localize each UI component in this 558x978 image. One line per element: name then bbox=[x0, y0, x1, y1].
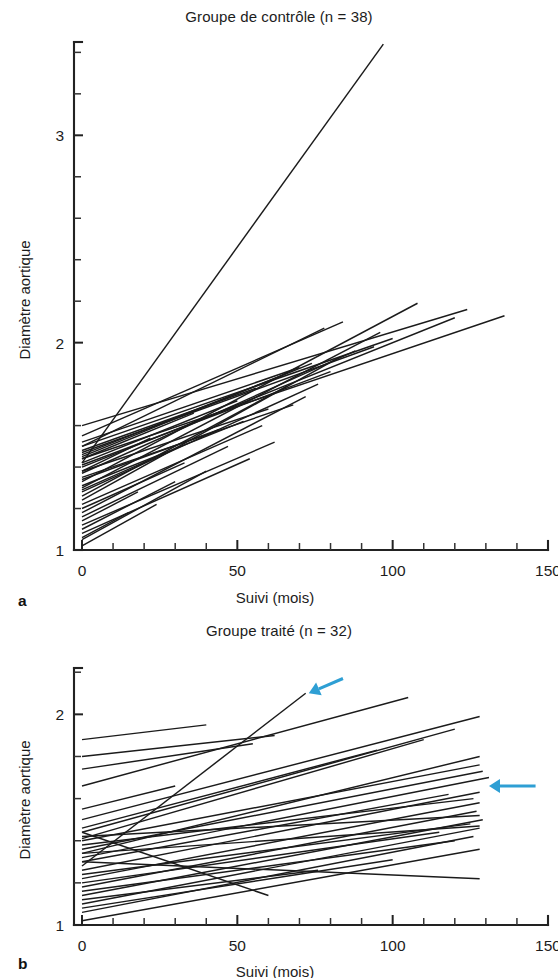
y-tick-label: 1 bbox=[55, 542, 64, 559]
y-tick-label: 1 bbox=[55, 917, 64, 934]
x-tick-label: 0 bbox=[78, 937, 87, 954]
patient-trajectory-line bbox=[82, 332, 380, 488]
y-tick-label: 2 bbox=[55, 706, 64, 723]
x-tick-label: 150 bbox=[535, 937, 558, 954]
x-tick-label: 150 bbox=[535, 562, 558, 579]
x-tick-label: 100 bbox=[380, 562, 406, 579]
x-tick-label: 0 bbox=[78, 562, 87, 579]
patient-trajectory-line bbox=[82, 725, 206, 740]
patient-trajectory-line bbox=[82, 697, 408, 785]
arrow-plateau-group-head bbox=[489, 779, 500, 793]
panel-a-control-group: Groupe de contrôle (n = 38) 123050100150… bbox=[0, 0, 558, 600]
panel-b-plot: 12050100150Suivi (mois)Diamètre aortique bbox=[0, 600, 558, 978]
x-tick-label: 50 bbox=[229, 562, 247, 579]
patient-trajectory-line bbox=[82, 351, 355, 473]
patient-trajectory-line bbox=[82, 463, 185, 509]
y-axis-title: Diamètre aortique bbox=[16, 740, 33, 859]
panel-a-plot: 123050100150Suivi (mois)Diamètre aortiqu… bbox=[0, 0, 558, 600]
figure-root: Groupe de contrôle (n = 38) 123050100150… bbox=[0, 0, 558, 978]
patient-trajectory-line bbox=[82, 44, 383, 463]
y-axis-title: Diamètre aortique bbox=[16, 240, 33, 359]
patient-trajectory-line bbox=[82, 860, 393, 908]
patient-trajectory-line bbox=[82, 309, 467, 425]
x-tick-label: 100 bbox=[380, 937, 406, 954]
y-tick-label: 2 bbox=[55, 335, 64, 352]
y-tick-label: 3 bbox=[55, 127, 64, 144]
patient-trajectory-line bbox=[82, 841, 455, 892]
panel-b-treated-group: Groupe traité (n = 32) 12050100150Suivi … bbox=[0, 600, 558, 978]
patient-trajectory-line bbox=[82, 735, 275, 756]
arrow-fast-riser bbox=[319, 679, 343, 689]
patient-trajectory-line bbox=[82, 849, 480, 921]
x-axis-title: Suivi (mois) bbox=[236, 963, 314, 978]
panel-b-letter: b bbox=[18, 955, 27, 973]
x-tick-label: 50 bbox=[229, 937, 247, 954]
